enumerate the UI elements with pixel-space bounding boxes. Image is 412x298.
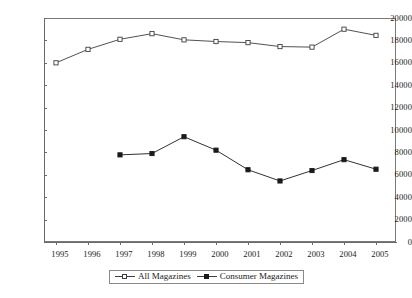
x-tick-mark <box>184 242 185 245</box>
x-tick-mark <box>248 242 249 245</box>
x-tick-mark <box>312 242 313 245</box>
y-tick-mark <box>44 108 47 109</box>
x-tick-mark <box>344 242 345 245</box>
y-tick-label: 16000 <box>372 58 412 67</box>
y-tick-label: 14000 <box>372 81 412 90</box>
x-tick-mark <box>152 242 153 245</box>
y-tick-mark <box>44 220 47 221</box>
y-tick-mark <box>44 152 47 153</box>
legend-entry-all-magazines: All Magazines <box>115 272 191 281</box>
y-tick-label: 4000 <box>372 193 412 202</box>
y-tick-mark <box>44 197 47 198</box>
y-tick-mark <box>44 242 47 243</box>
x-tick-mark <box>280 242 281 245</box>
legend-label-consumer-magazines: Consumer Magazines <box>220 272 298 281</box>
x-tick-mark <box>376 242 377 245</box>
y-tick-label: 12000 <box>372 103 412 112</box>
x-tick-label: 2005 <box>360 250 400 259</box>
y-tick-label: 6000 <box>372 170 412 179</box>
y-tick-label: 18000 <box>372 36 412 45</box>
x-tick-mark <box>88 242 89 245</box>
y-tick-mark <box>44 40 47 41</box>
y-tick-mark <box>44 175 47 176</box>
x-tick-mark <box>216 242 217 245</box>
y-tick-mark <box>44 130 47 131</box>
chart-legend: All Magazines Consumer Magazines <box>109 270 304 284</box>
y-tick-mark <box>44 63 47 64</box>
y-tick-mark <box>44 85 47 86</box>
y-tick-label: 20000 <box>372 14 412 23</box>
legend-label-all-magazines: All Magazines <box>138 272 191 281</box>
legend-entry-consumer-magazines: Consumer Magazines <box>197 272 298 281</box>
y-tick-label: 8000 <box>372 148 412 157</box>
legend-marker-open-square-icon <box>115 272 135 281</box>
y-tick-label: 10000 <box>372 126 412 135</box>
x-tick-mark <box>120 242 121 245</box>
y-tick-mark <box>44 18 47 19</box>
legend-marker-filled-square-icon <box>197 272 217 281</box>
plot-area <box>44 18 396 242</box>
x-tick-mark <box>56 242 57 245</box>
line-chart: 0200040006000800010000120001400016000180… <box>0 0 412 298</box>
y-tick-label: 2000 <box>372 215 412 224</box>
y-tick-label: 0 <box>372 238 412 247</box>
